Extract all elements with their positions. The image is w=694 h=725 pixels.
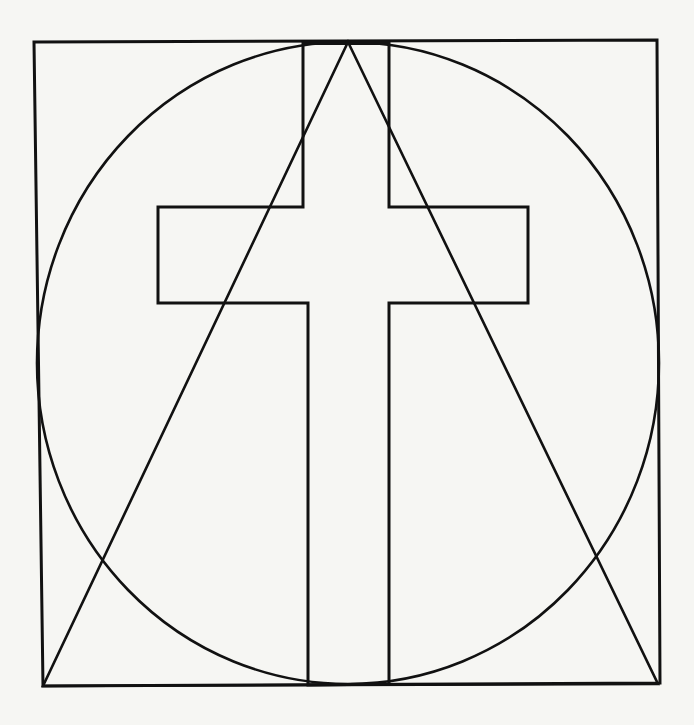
emblem-drawing <box>0 0 694 725</box>
emblem-figure: Geometric emblem: cross within triangle … <box>0 0 694 725</box>
paper-background <box>0 0 694 725</box>
